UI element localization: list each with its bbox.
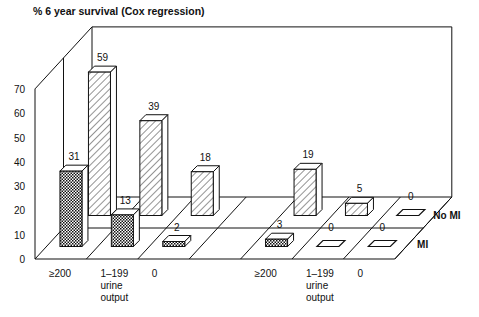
bar-mi: 31 xyxy=(60,151,88,246)
x-category-label: urine xyxy=(306,280,329,291)
row-label-mi: MI xyxy=(417,239,428,250)
bar-no-mi: 0 xyxy=(397,191,425,216)
x-category-label: 1–199 xyxy=(306,268,334,279)
bar-value-label: 3 xyxy=(277,219,283,230)
y-tick-label: 10 xyxy=(14,230,26,241)
bar-value-label: 0 xyxy=(408,191,414,202)
x-category-label: output xyxy=(100,292,128,303)
x-category-label: 0 xyxy=(357,268,363,279)
x-category-label: ≥200 xyxy=(49,268,72,279)
bar-value-label: 18 xyxy=(200,152,212,163)
bar-no-mi: 59 xyxy=(88,52,116,215)
x-category-label: 1–199 xyxy=(100,268,128,279)
y-tick-label: 40 xyxy=(14,157,26,168)
bar-chart-3d: 010203040506070593918195031132300No MIMI… xyxy=(0,0,479,317)
y-tick-label: 50 xyxy=(14,133,26,144)
y-tick-label: 70 xyxy=(14,84,26,95)
bar-value-label: 0 xyxy=(380,222,386,233)
y-tick-label: 0 xyxy=(19,254,25,265)
bar-mi: 0 xyxy=(368,222,396,247)
y-tick-label: 20 xyxy=(14,205,26,216)
bar-value-label: 5 xyxy=(357,183,363,194)
bar-no-mi: 39 xyxy=(140,101,168,216)
bar-mi: 2 xyxy=(163,222,191,247)
bar-value-label: 19 xyxy=(302,149,314,160)
bar-value-label: 39 xyxy=(148,101,160,112)
bar-value-label: 59 xyxy=(97,52,109,63)
x-category-label: ≥200 xyxy=(255,268,278,279)
x-category-label: urine xyxy=(100,280,123,291)
y-tick-label: 30 xyxy=(14,181,26,192)
bar-value-label: 13 xyxy=(120,195,132,206)
bar-no-mi: 19 xyxy=(294,149,322,215)
x-category-label: output xyxy=(306,292,334,303)
bar-mi: 0 xyxy=(317,222,345,247)
y-tick-label: 60 xyxy=(14,108,26,119)
bar-value-label: 31 xyxy=(68,151,80,162)
bar-mi: 3 xyxy=(266,219,294,246)
x-category-label: 0 xyxy=(152,268,158,279)
bar-no-mi: 5 xyxy=(345,183,373,215)
bar-no-mi: 18 xyxy=(191,152,219,216)
bar-value-label: 2 xyxy=(174,222,180,233)
row-label-no-mi: No MI xyxy=(433,210,460,221)
bar-value-label: 0 xyxy=(328,222,334,233)
